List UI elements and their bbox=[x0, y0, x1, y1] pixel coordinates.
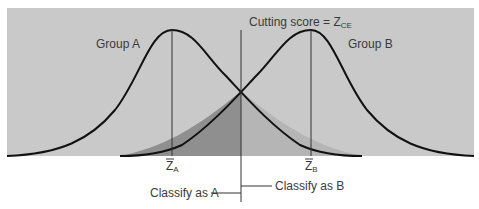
classify-a-label: Classify as A bbox=[150, 186, 219, 200]
group-b-label: Group B bbox=[348, 37, 393, 51]
group-a-mean-label: ZA bbox=[166, 159, 179, 174]
cutting-score-title: Cutting score = ZCE bbox=[249, 15, 352, 30]
discriminant-cutting-score-diagram: Cutting score = ZCE Group A Group B ZA Z… bbox=[0, 0, 479, 209]
group-a-label: Group A bbox=[96, 37, 140, 51]
classify-b-label: Classify as B bbox=[275, 179, 344, 193]
group-b-mean-label: ZB bbox=[305, 159, 318, 174]
